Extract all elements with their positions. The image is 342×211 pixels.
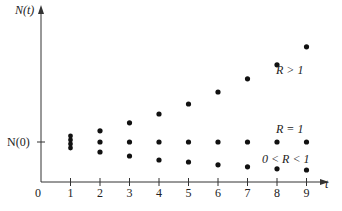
y-axis-arrow-icon <box>38 5 44 14</box>
series-label: R > 1 <box>275 63 303 77</box>
data-point <box>304 139 309 144</box>
data-point <box>156 139 161 144</box>
data-point <box>245 139 250 144</box>
x-tick-label: 2 <box>97 186 103 200</box>
chart: 0123456789 tN(t)N(0)R > 1R = 10 < R < 1 <box>0 0 342 211</box>
data-point <box>274 166 279 171</box>
data-point <box>215 162 220 167</box>
data-point <box>245 164 250 169</box>
data-point <box>274 139 279 144</box>
x-axis-label: t <box>325 177 329 191</box>
series-label: R = 1 <box>275 122 303 136</box>
x-tick-label: 4 <box>156 186 162 200</box>
data-point-cluster <box>68 146 73 151</box>
data-point <box>186 159 191 164</box>
data-point <box>215 139 220 144</box>
data-point <box>97 139 102 144</box>
x-tick-label: 6 <box>215 186 221 200</box>
y-tick-label-n0: N(0) <box>7 135 30 149</box>
x-tick-label: 7 <box>245 186 251 200</box>
data-point <box>304 167 309 172</box>
data-point <box>127 139 132 144</box>
data-point <box>215 89 220 94</box>
data-point <box>304 44 309 49</box>
x-tick-label: 9 <box>304 186 310 200</box>
labels: tN(t)N(0)R > 1R = 10 < R < 1 <box>7 3 329 191</box>
data-point <box>127 153 132 158</box>
data-point <box>186 139 191 144</box>
x-tick-label: 3 <box>127 186 133 200</box>
x-tick-label: 5 <box>186 186 192 200</box>
x-tick-label: 8 <box>274 186 280 200</box>
data-point <box>245 76 250 81</box>
data-point <box>97 128 102 133</box>
data-point <box>186 101 191 106</box>
x-tick-label: 0 <box>35 186 41 200</box>
data-point <box>156 157 161 162</box>
data-point <box>127 120 132 125</box>
x-ticks: 0123456789 <box>35 178 310 200</box>
data-point <box>97 149 102 154</box>
y-axis-label: N(t) <box>14 3 34 17</box>
series-label: 0 < R < 1 <box>262 152 310 166</box>
x-tick-label: 1 <box>68 186 74 200</box>
data-point <box>156 111 161 116</box>
